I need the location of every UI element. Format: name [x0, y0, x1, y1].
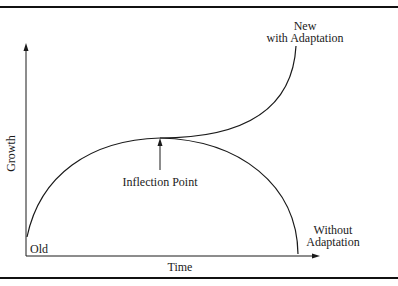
origin-label: Old — [30, 243, 48, 256]
new-label-line2: with Adaptation — [255, 32, 355, 45]
without-adaptation-curve — [160, 138, 298, 254]
inflection-label: Inflection Point — [120, 176, 200, 189]
y-axis-label: Growth — [4, 135, 19, 172]
x-axis-label: Time — [160, 261, 200, 274]
without-label-line2: Adaptation — [300, 236, 366, 249]
new-with-adaptation-curve — [160, 46, 296, 138]
